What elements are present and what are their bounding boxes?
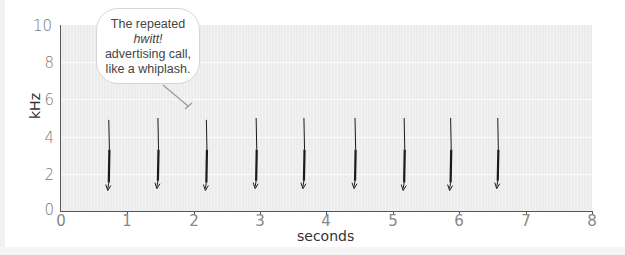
callout-text-prefix: The repeated xyxy=(111,17,185,31)
callout-line-2: advertising call, xyxy=(97,47,199,62)
callout-pointer xyxy=(0,0,625,255)
callout-call-name: hwitt! xyxy=(133,32,162,46)
annotation-callout: The repeated hwitt! advertising call, li… xyxy=(96,8,200,84)
callout-line-1: The repeated hwitt! xyxy=(97,17,199,47)
callout-line-3: like a whiplash. xyxy=(97,62,199,77)
